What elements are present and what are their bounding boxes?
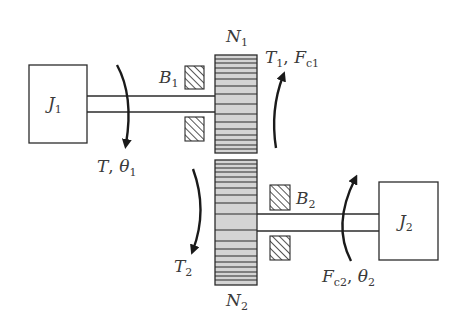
label-n2: N2: [226, 292, 248, 312]
gear-n2: [215, 160, 257, 285]
gear1-torque-arrow-icon: [274, 76, 283, 148]
label-t-theta1: T, θ1: [97, 158, 136, 178]
label-j2: J2: [399, 213, 413, 233]
shaft-2: [257, 214, 379, 231]
label-b1: B1: [159, 69, 179, 89]
shaft-1: [87, 96, 215, 112]
label-fc2-theta2: Fc2, θ2: [322, 268, 375, 288]
label-t2: T2: [174, 258, 192, 278]
gear-train-diagram: [0, 0, 460, 330]
gear-n1: [215, 55, 257, 153]
gear2-torque-arrow-icon: [193, 169, 201, 250]
bearing-b1: [185, 66, 204, 141]
label-j1: J1: [48, 95, 62, 115]
bearing-b2: [270, 185, 290, 260]
label-n1: N1: [226, 28, 248, 48]
label-b2: B2: [296, 190, 316, 210]
output-arrow-icon: [342, 179, 355, 261]
input-torque-arrow-icon: [117, 65, 129, 144]
label-t1-fc1: T1, Fc1: [265, 49, 319, 69]
